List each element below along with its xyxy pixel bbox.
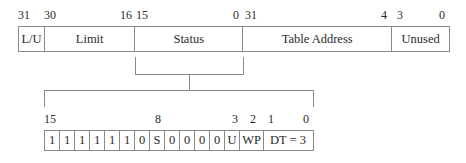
- field-status: Status: [135, 27, 243, 51]
- bit-label-15: 15: [136, 9, 148, 21]
- status-cell-bit7: 0: [165, 131, 180, 150]
- status-cell-s: S: [150, 131, 165, 150]
- bit-label-4: 4: [381, 9, 387, 21]
- status-cell-bit6: 0: [180, 131, 195, 150]
- field-lu: L/U: [19, 27, 45, 51]
- status-bit-0: 0: [303, 113, 309, 125]
- status-cell-bit4: 0: [210, 131, 225, 150]
- status-bit-8: 8: [155, 113, 161, 125]
- expansion-right-leg: [313, 90, 314, 107]
- status-cell-bit11: 1: [105, 131, 120, 150]
- status-cell-u: U: [225, 131, 240, 150]
- expansion-left-leg: [44, 90, 45, 107]
- bit-label-16: 16: [120, 9, 132, 21]
- status-cell-bit5: 0: [195, 131, 210, 150]
- bracket-left-leg: [135, 57, 136, 74]
- status-register: 1 1 1 1 1 1 0 S 0 0 0 0 U WP DT = 3: [44, 130, 314, 151]
- status-bit-2: 2: [250, 113, 256, 125]
- bit-label-30: 30: [44, 9, 56, 21]
- field-limit: Limit: [45, 27, 136, 51]
- field-unused: Unused: [392, 27, 449, 51]
- top-register: L/U Limit Status Table Address Unused: [18, 26, 450, 52]
- status-cell-dt: DT = 3: [264, 131, 312, 150]
- bit-label-3: 3: [397, 9, 403, 21]
- status-cell-bit15: 1: [45, 131, 60, 150]
- status-cell-bit13: 1: [75, 131, 90, 150]
- status-bit-15: 15: [44, 113, 56, 125]
- status-cell-bit14: 1: [60, 131, 75, 150]
- status-bit-1: 1: [268, 113, 274, 125]
- bit-label-0: 0: [233, 9, 239, 21]
- field-table-address: Table Address: [243, 27, 392, 51]
- bracket-stem: [189, 74, 190, 90]
- status-cell-bit9: 0: [135, 131, 150, 150]
- status-cell-bit12: 1: [90, 131, 105, 150]
- status-bit-3: 3: [232, 113, 238, 125]
- bit-label-31-addr: 31: [245, 9, 257, 21]
- bit-label-0-end: 0: [439, 9, 445, 21]
- expansion-top-line: [44, 90, 314, 91]
- status-cell-wp: WP: [240, 131, 264, 150]
- bracket-right-leg: [243, 57, 244, 74]
- bit-label-31: 31: [18, 9, 30, 21]
- status-cell-bit10: 1: [120, 131, 135, 150]
